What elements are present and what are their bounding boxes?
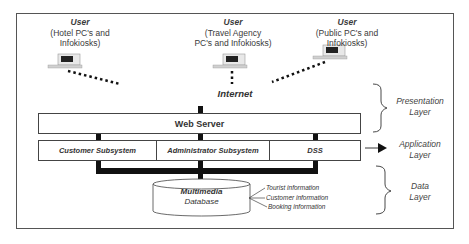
layer-name: Application <box>390 139 450 150</box>
customer-subsystem-box: Customer Subsystem <box>39 141 156 160</box>
booking-info-label: Booking information <box>266 202 328 212</box>
presentation-layer-label: Presentation Layer <box>390 96 450 118</box>
presentation-brace-icon <box>373 84 387 132</box>
administrator-subsystem-label: Administrator Subsystem <box>167 146 258 155</box>
user-desc: (Hotel PC's and <box>45 28 115 39</box>
customer-subsystem-label: Customer Subsystem <box>59 146 136 155</box>
tourist-info-label: Tourist information <box>266 183 328 193</box>
user-title: User <box>45 17 115 28</box>
dss-box: DSS <box>269 141 360 160</box>
database-title: Multimedia <box>153 187 250 197</box>
connection-line <box>272 62 325 82</box>
user-travel-agency: User (Travel Agency PC's and Infokiosks) <box>188 17 278 49</box>
user-desc: Infokiosks) <box>45 38 115 49</box>
layer-name: Data <box>390 181 450 192</box>
administrator-subsystem-box: Administrator Subsystem <box>156 141 269 160</box>
connection-line <box>68 71 120 84</box>
subsystems-row: Customer Subsystem Administrator Subsyst… <box>38 140 361 161</box>
application-layer-label: Application Layer <box>390 139 450 161</box>
layer-suffix: Layer <box>390 192 450 203</box>
user-desc: (Travel Agency <box>188 28 278 39</box>
arrow-right-icon <box>378 143 387 153</box>
data-bus <box>96 168 318 174</box>
dss-label: DSS <box>307 146 322 155</box>
database-contents: Tourist information Customer information… <box>266 183 328 212</box>
user-desc: PC's and Infokiosks) <box>188 38 278 49</box>
user-desc: Infokiosks) <box>312 38 382 49</box>
user-title: User <box>188 17 278 28</box>
layer-suffix: Layer <box>390 150 450 161</box>
data-brace-icon <box>376 166 391 214</box>
computer-icon <box>213 54 247 68</box>
user-public: User (Public PC's and Infokiosks) <box>312 17 382 49</box>
layer-name: Presentation <box>390 96 450 107</box>
computer-icon <box>48 54 82 68</box>
database-subtitle: Database <box>153 197 250 207</box>
user-hotel: User (Hotel PC's and Infokiosks) <box>45 17 115 49</box>
user-desc: (Public PC's and <box>312 28 382 39</box>
web-server-label: Web Server <box>175 119 224 129</box>
layer-suffix: Layer <box>390 107 450 118</box>
user-title: User <box>312 17 382 28</box>
web-server-box: Web Server <box>38 113 361 134</box>
data-layer-label: Data Layer <box>390 181 450 203</box>
internet-label: Internet <box>205 88 265 99</box>
customer-info-label: Customer information <box>266 193 328 203</box>
database-label: Multimedia Database <box>153 187 250 207</box>
